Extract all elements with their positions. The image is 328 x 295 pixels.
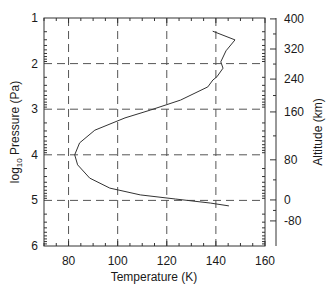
y-tick-label: 3: [31, 102, 38, 116]
y-tick-label: 6: [31, 239, 38, 253]
x-tick-label: 120: [157, 254, 177, 268]
altitude-tick-label: -80: [284, 214, 302, 228]
y-tick-label: 4: [31, 148, 38, 162]
grid-lines: [44, 18, 265, 246]
temperature-profile-line: [75, 31, 235, 206]
altitude-tick-label: 160: [284, 105, 304, 119]
x-axis-title: Temperature (K): [111, 270, 198, 284]
altitude-axis-ticks: 400320240160800-80: [270, 12, 304, 228]
y-axis-title: log10 Pressure (Pa): [8, 81, 24, 183]
minor-ticks: [44, 18, 265, 246]
altitude-tick-label: 0: [284, 193, 291, 207]
y-tick-label: 5: [31, 193, 38, 207]
altitude-tick-label: 320: [284, 42, 304, 56]
altitude-tick-label: 240: [284, 72, 304, 86]
x-tick-label: 80: [62, 254, 76, 268]
y-axis-ticks: 123456: [31, 11, 38, 253]
x-tick-label: 100: [108, 254, 128, 268]
altitude-tick-label: 400: [284, 12, 304, 26]
x-tick-label: 160: [255, 254, 275, 268]
plot-frame: [44, 18, 265, 246]
temperature-pressure-chart: 80100120140160 123456 400320240160800-80…: [0, 0, 328, 295]
y-tick-label: 1: [31, 11, 38, 25]
y-tick-label: 2: [31, 57, 38, 71]
x-axis-ticks: 80100120140160: [62, 254, 275, 268]
altitude-tick-label: 80: [284, 153, 298, 167]
x-tick-label: 140: [206, 254, 226, 268]
altitude-axis-title: Altitude (km): [311, 98, 325, 165]
